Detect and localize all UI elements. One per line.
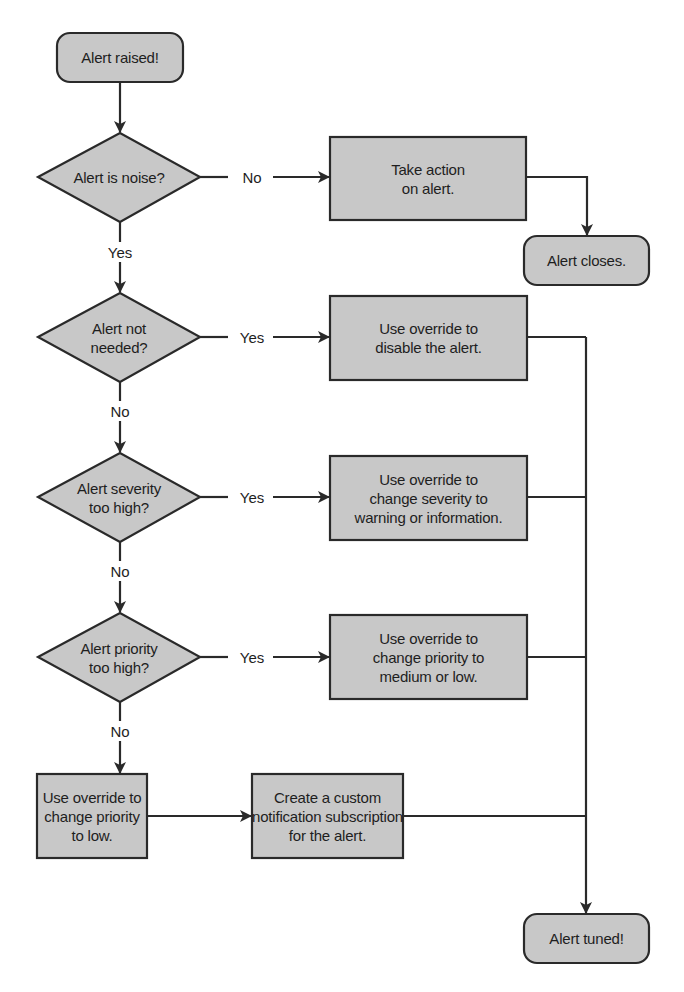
edge-label-priority-yes: Yes — [238, 649, 266, 666]
edge-act-closes — [526, 177, 587, 235]
priority-low-label: Use override to change priority to low. — [37, 774, 147, 858]
closes-label: Alert closes. — [524, 236, 649, 285]
subscription-label: Create a custom notification subscriptio… — [252, 774, 403, 858]
edge-label-priority-no: No — [108, 723, 131, 740]
edge-label-not-needed-no: No — [108, 403, 131, 420]
decision-noise-label: Alert is noise? — [38, 133, 200, 222]
priority-medium-label: Use override to change priority to mediu… — [330, 615, 527, 699]
start-label: Alert raised! — [57, 33, 183, 82]
decision-severity-label: Alert severity too high? — [38, 453, 200, 542]
edge-label-noise-no: No — [240, 169, 263, 186]
tuned-label: Alert tuned! — [524, 914, 649, 963]
disable-label: Use override to disable the alert. — [330, 296, 527, 380]
take-action-label: Take action on alert. — [330, 137, 526, 220]
edge-label-noise-yes: Yes — [106, 244, 134, 261]
decision-not-needed-label: Alert not needed? — [38, 293, 200, 382]
edge-label-severity-yes: Yes — [238, 489, 266, 506]
edge-label-not-needed-yes: Yes — [238, 329, 266, 346]
severity-label: Use override to change severity to warni… — [330, 456, 527, 540]
decision-priority-label: Alert priority too high? — [38, 613, 200, 702]
edge-label-severity-no: No — [108, 563, 131, 580]
